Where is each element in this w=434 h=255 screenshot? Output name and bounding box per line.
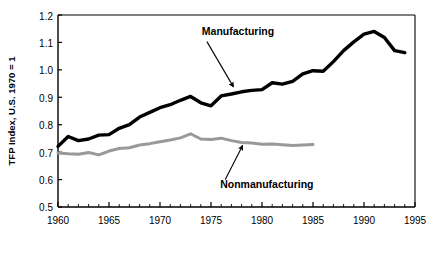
x-tick-label: 1975 <box>200 215 223 226</box>
series-label-nonmanufacturing: Nonmanufacturing <box>220 178 313 190</box>
x-tick-label: 1960 <box>47 215 70 226</box>
x-tick-label: 1985 <box>302 215 325 226</box>
y-tick-label: 0.5 <box>39 202 53 213</box>
y-tick-label: 0.8 <box>39 120 53 131</box>
y-tick-label: 1.2 <box>39 11 53 22</box>
x-tick-label: 1980 <box>251 215 274 226</box>
chart-screenshot: TFP Index, U.S. 1970 = 1 1.2 1.1 1.0 0.9… <box>0 0 434 255</box>
y-tick-label: 1.0 <box>39 65 53 76</box>
series-label-manufacturing: Manufacturing <box>202 25 274 37</box>
y-axis-title: TFP Index, U.S. 1970 = 1 <box>6 56 17 166</box>
x-tick-label: 1995 <box>404 215 427 226</box>
y-tick-label: 0.7 <box>39 148 53 159</box>
y-tick-label: 0.6 <box>39 175 53 186</box>
x-tick-label: 1965 <box>98 215 121 226</box>
x-tick-label: 1970 <box>149 215 172 226</box>
y-tick-label: 1.1 <box>39 38 53 49</box>
tfp-index-line-chart: TFP Index, U.S. 1970 = 1 1.2 1.1 1.0 0.9… <box>0 0 434 255</box>
y-tick-label: 0.9 <box>39 93 53 104</box>
x-tick-label: 1990 <box>353 215 376 226</box>
